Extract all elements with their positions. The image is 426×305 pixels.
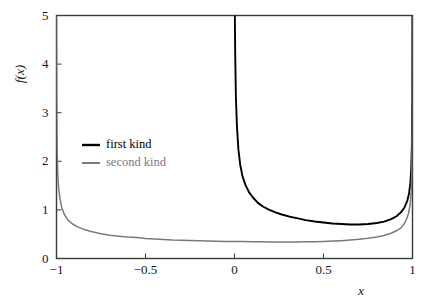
series-line-first-kind [235, 16, 413, 225]
x-tick-label: 0 [205, 262, 265, 278]
chart-figure: −1−0.500.51 012345 f(x) x first kindseco… [0, 0, 426, 305]
axis-ticks [57, 64, 324, 258]
y-tick-label: 5 [5, 8, 49, 24]
legend-label-first-kind: first kind [106, 137, 151, 152]
y-tick-label: 3 [5, 105, 49, 121]
x-tick-label: −0.5 [116, 262, 176, 278]
data-series [57, 16, 413, 242]
y-tick-label: 1 [5, 202, 49, 218]
y-axis-title: f(x) [10, 52, 30, 96]
legend-label-second-kind: second kind [106, 155, 166, 170]
y-axis-title-text: f(x) [12, 65, 28, 84]
y-tick-label: 0 [5, 251, 49, 267]
chart-plot-area [0, 0, 426, 305]
legend-swatches [82, 145, 100, 163]
x-tick-label: 1 [383, 262, 426, 278]
x-axis-title-text: x [358, 283, 364, 299]
x-tick-label: 0.5 [294, 262, 354, 278]
y-tick-label: 2 [5, 153, 49, 169]
